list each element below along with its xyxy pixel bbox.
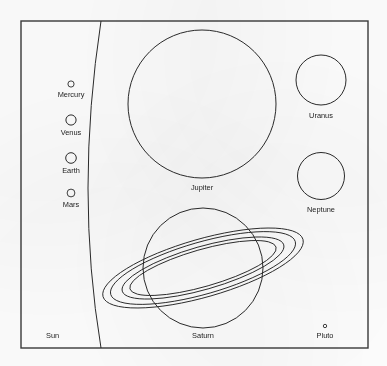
- mars-body: [67, 189, 75, 197]
- saturn-label: Saturn: [192, 331, 214, 340]
- sun-limb-arc: [88, 21, 101, 348]
- pluto-label: Pluto: [317, 331, 334, 340]
- venus-label: Venus: [61, 128, 82, 137]
- earth-body: [66, 153, 77, 164]
- mars-label: Mars: [63, 200, 80, 209]
- uranus-body: [296, 55, 346, 105]
- solar-system-figure: MercuryVenusEarthMarsJupiterUranusNeptun…: [0, 0, 387, 366]
- uranus-label: Uranus: [309, 111, 333, 120]
- earth-label: Earth: [62, 166, 80, 175]
- saturn-body: [143, 208, 263, 328]
- mercury-body: [68, 81, 74, 87]
- neptune-label: Neptune: [307, 205, 335, 214]
- pluto-body: [323, 324, 326, 327]
- venus-body: [66, 115, 76, 125]
- sun-label: Sun: [46, 331, 59, 340]
- solar-system-drawing: MercuryVenusEarthMarsJupiterUranusNeptun…: [0, 0, 387, 366]
- jupiter-label: Jupiter: [191, 183, 214, 192]
- neptune-body: [298, 153, 345, 200]
- jupiter-body: [128, 30, 276, 178]
- mercury-label: Mercury: [58, 90, 85, 99]
